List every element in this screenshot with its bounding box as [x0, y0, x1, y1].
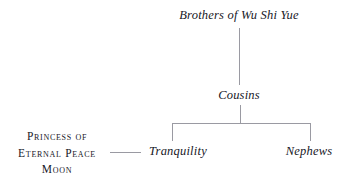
node-nephews[interactable]: Nephews: [286, 144, 333, 159]
connector-bracket-drop-right: [310, 123, 311, 141]
node-cousins[interactable]: Cousins: [218, 88, 260, 103]
connector-cousins-to-bracket: [240, 105, 241, 124]
princess-label-line-1: Princess of: [8, 128, 106, 145]
connector-princess-to-tranquility: [110, 152, 141, 153]
node-tranquility[interactable]: Tranquility: [149, 144, 207, 159]
princess-label-line-2: Eternal Peace: [8, 145, 106, 162]
connector-brothers-to-cousins: [239, 28, 240, 85]
connector-sibling-bracket: [172, 123, 311, 124]
node-brothers-of-wu-shi-yue[interactable]: Brothers of Wu Shi Yue: [179, 8, 298, 23]
connector-bracket-drop-left: [172, 123, 173, 141]
princess-label-line-3: Moon: [8, 161, 106, 178]
family-tree-diagram: Brothers of Wu Shi Yue Cousins Tranquili…: [0, 0, 342, 184]
node-princess-of-eternal-peace-moon[interactable]: Princess of Eternal Peace Moon: [8, 128, 106, 178]
